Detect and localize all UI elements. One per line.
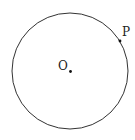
point-p-label: P [122,25,130,39]
circle-diagram: O P [0,0,135,140]
point-p [119,40,122,43]
center-label: O [58,59,68,73]
center-point [69,70,72,73]
